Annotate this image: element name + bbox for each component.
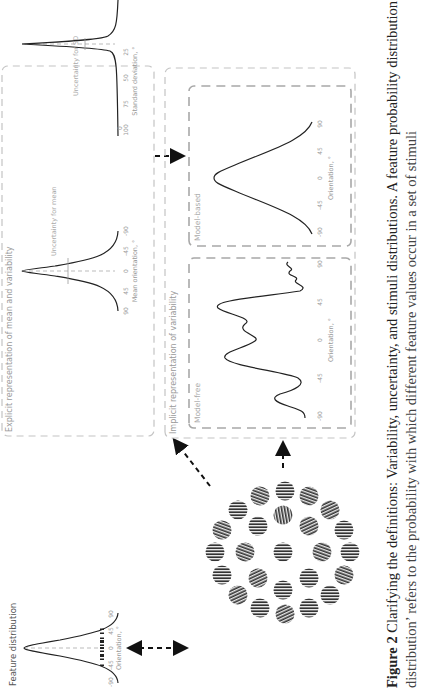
svg-text:0: 0 xyxy=(116,126,123,130)
figure-caption: Figure 2 Clarifying the definitions: Var… xyxy=(383,0,421,688)
svg-text:-90: -90 xyxy=(316,411,323,421)
caption-line-2: distribution’ refers to the probability … xyxy=(402,0,421,688)
svg-text:90: 90 xyxy=(316,120,323,128)
stimuli-array xyxy=(206,482,360,624)
svg-text:-45: -45 xyxy=(107,660,114,670)
sd-plot-xlabel: Standard deviation, ° xyxy=(131,46,139,115)
implicit-panel-title: Implicit representation of variability xyxy=(169,291,178,434)
svg-text:45: 45 xyxy=(122,287,129,295)
sd-uncertainty-curve xyxy=(22,0,118,136)
model-based-curve xyxy=(214,122,312,234)
svg-text:75: 75 xyxy=(122,100,129,108)
svg-text:0: 0 xyxy=(316,176,323,180)
svg-text:45: 45 xyxy=(107,627,114,635)
svg-text:25: 25 xyxy=(122,48,129,56)
model-based-label: Model-based xyxy=(193,193,202,241)
svg-text:100: 100 xyxy=(122,124,129,136)
feature-distribution-panel: Feature distribution -90 -45 0 45 90 Ori… xyxy=(8,603,123,687)
model-free-ticks: -90 -45 0 45 90 xyxy=(316,260,323,421)
model-based-ticks: -90 -45 0 45 90 xyxy=(316,120,323,237)
sd-uncertainty-label: Uncertainty for SD xyxy=(72,36,80,96)
svg-text:-45: -45 xyxy=(316,200,323,210)
caption-line-1: Figure 2 Clarifying the definitions: Var… xyxy=(383,0,402,688)
figure-number: Figure 2 xyxy=(384,636,400,688)
svg-text:0: 0 xyxy=(107,646,114,650)
implicit-panel: Implicit representation of variability M… xyxy=(165,68,355,438)
caption-text-1: Clarifying the definitions: Variability,… xyxy=(384,0,400,633)
svg-text:-90: -90 xyxy=(316,227,323,237)
explicit-panel-title: Explicit representation of mean and vari… xyxy=(5,246,14,432)
svg-text:45: 45 xyxy=(316,298,323,306)
model-free-curve xyxy=(217,262,305,418)
svg-text:-90: -90 xyxy=(122,226,129,236)
mean-plot-ticks: -90 -45 0 45 90 xyxy=(122,226,129,315)
link-arrow-stimuli-explicit xyxy=(175,441,210,486)
svg-text:-45: -45 xyxy=(316,373,323,383)
svg-text:-45: -45 xyxy=(122,246,129,256)
model-based-xlabel: Orientation, ° xyxy=(327,156,335,200)
feature-distribution-ticks: -90 -45 0 45 90 xyxy=(107,610,114,687)
mean-uncertainty-label: Uncertainty for mean xyxy=(50,187,58,256)
svg-text:50: 50 xyxy=(122,74,129,82)
svg-text:-90: -90 xyxy=(107,677,114,687)
model-free-label: Model-free xyxy=(193,383,202,423)
sample-ticks xyxy=(100,629,104,667)
svg-text:45: 45 xyxy=(316,147,323,155)
svg-text:90: 90 xyxy=(122,307,129,315)
mean-plot-xlabel: Mean orientation, ° xyxy=(131,240,139,303)
svg-text:0: 0 xyxy=(316,338,323,342)
svg-text:0: 0 xyxy=(122,269,129,273)
feature-distribution-title: Feature distribution xyxy=(8,603,18,686)
svg-text:90: 90 xyxy=(107,610,114,618)
explicit-panel: Explicit representation of mean and vari… xyxy=(2,0,154,436)
model-free-xlabel: Orientation, ° xyxy=(327,318,335,362)
svg-text:90: 90 xyxy=(316,260,323,268)
feature-distribution-xlabel: Orientation, ° xyxy=(115,626,123,670)
